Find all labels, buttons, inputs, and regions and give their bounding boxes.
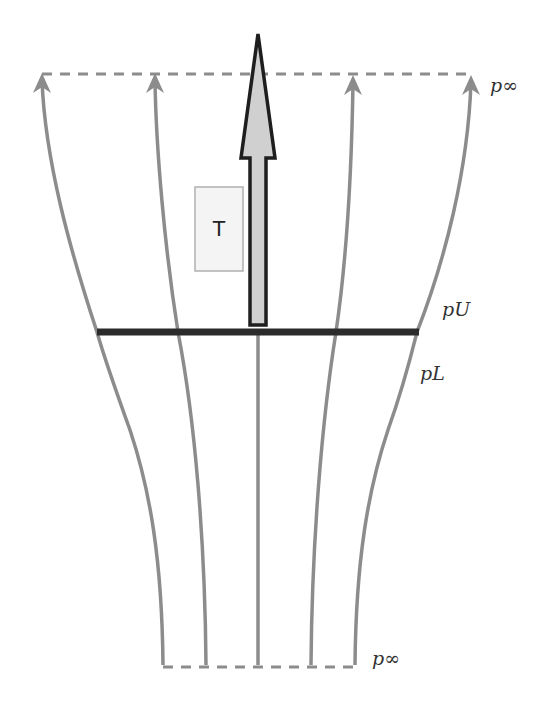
- p-infinity-top-label: p∞: [490, 74, 518, 96]
- thrust-arrow-icon: [241, 34, 275, 325]
- p-upper-label: pU: [442, 298, 471, 320]
- thrust-label: T: [212, 216, 225, 241]
- p-lower-label: pL: [420, 362, 445, 384]
- streamline-1: [42, 80, 163, 665]
- streamline-5: [355, 82, 471, 665]
- streamline-4: [311, 82, 353, 665]
- p-infinity-bottom-label: p∞: [372, 647, 400, 669]
- streamline-2: [155, 80, 206, 665]
- diagram-svg: T p∞ pU pL p∞: [0, 0, 541, 713]
- streamtube-diagram: T p∞ pU pL p∞: [0, 0, 541, 713]
